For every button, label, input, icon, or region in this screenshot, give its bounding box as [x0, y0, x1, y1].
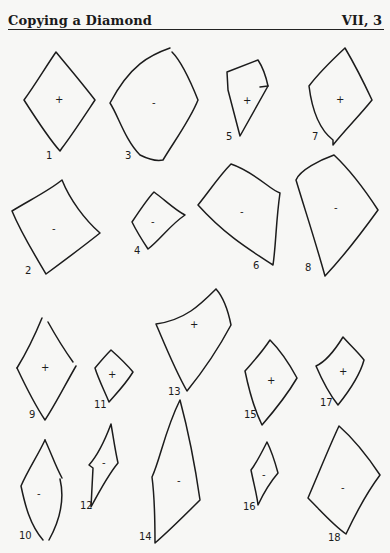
svg-text:-: - [102, 457, 106, 468]
svg-text:-: - [334, 202, 338, 213]
figure-18: - 18 [308, 426, 380, 543]
figure-12: - 12 [80, 424, 118, 511]
figure-10: - 10 [19, 440, 62, 541]
svg-text:+: + [339, 366, 347, 377]
svg-text:+: + [108, 369, 116, 380]
figure-11: + 11 [94, 350, 133, 410]
svg-text:+: + [55, 94, 63, 105]
svg-text:4: 4 [134, 245, 140, 256]
svg-text:-: - [52, 223, 56, 234]
svg-text:-: - [152, 97, 156, 108]
svg-text:13: 13 [168, 386, 181, 397]
figure-6: - 6 [198, 164, 280, 271]
svg-text:14: 14 [139, 531, 152, 542]
svg-text:15: 15 [244, 409, 257, 420]
figure-3: - 3 [110, 48, 198, 161]
svg-text:6: 6 [253, 260, 259, 271]
svg-text:18: 18 [328, 532, 341, 543]
svg-text:+: + [243, 95, 251, 106]
svg-text:+: + [336, 94, 344, 105]
svg-text:17: 17 [320, 397, 333, 408]
svg-text:5: 5 [226, 131, 232, 142]
figure-8: - 8 [296, 155, 378, 276]
svg-text:-: - [262, 469, 266, 480]
svg-text:7: 7 [312, 131, 318, 142]
figure-14: - 14 [139, 400, 200, 543]
svg-text:+: + [41, 362, 49, 373]
svg-text:-: - [177, 475, 181, 486]
svg-text:-: - [341, 482, 345, 493]
figure-2: - 2 [12, 180, 100, 276]
svg-text:+: + [267, 375, 275, 386]
figure-4: - 4 [132, 192, 185, 256]
svg-text:9: 9 [29, 409, 35, 420]
svg-text:+: + [190, 319, 198, 330]
svg-text:3: 3 [125, 150, 131, 161]
svg-text:10: 10 [19, 530, 32, 541]
figure-13: + 13 [156, 289, 231, 397]
figure-drawings: + 1 - 3 + 5 + 7 - 2 - 4 - 6 - 8 [0, 0, 390, 553]
figure-7: + 7 [309, 48, 372, 145]
svg-text:-: - [240, 206, 244, 217]
figure-9: + 9 [17, 318, 76, 420]
svg-text:12: 12 [80, 500, 93, 511]
svg-text:16: 16 [243, 501, 256, 512]
figure-1: + 1 [24, 52, 95, 161]
figure-17: + 17 [316, 337, 364, 408]
svg-text:-: - [151, 216, 155, 227]
figure-5: + 5 [226, 60, 268, 142]
svg-text:8: 8 [305, 262, 311, 273]
svg-text:2: 2 [25, 265, 31, 276]
figure-15: + 15 [244, 340, 297, 425]
svg-text:1: 1 [46, 150, 52, 161]
figure-16: - 16 [243, 442, 278, 512]
svg-text:-: - [37, 488, 41, 499]
svg-text:11: 11 [94, 399, 107, 410]
